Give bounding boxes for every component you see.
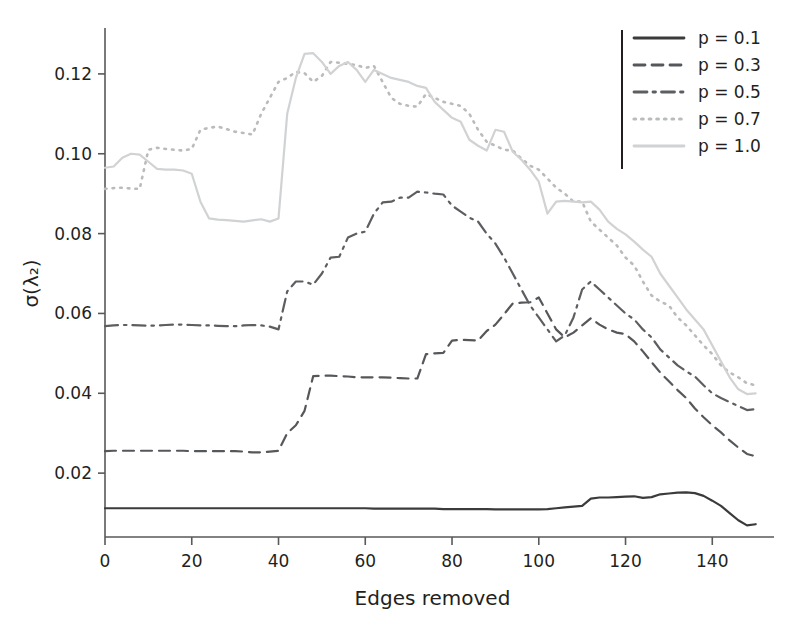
x-tick-label: 20 (181, 551, 203, 571)
chart-figure: 0.020.040.060.080.100.120204060801001201… (0, 0, 789, 627)
legend-label-1: p = 0.3 (698, 55, 761, 75)
x-tick-label: 100 (523, 551, 555, 571)
series-line-0 (105, 492, 756, 525)
y-tick-label: 0.10 (54, 144, 92, 164)
legend-label-0: p = 0.1 (698, 28, 761, 48)
y-tick-label: 0.08 (54, 224, 92, 244)
x-tick-label: 120 (609, 551, 641, 571)
x-tick-label: 80 (441, 551, 463, 571)
chart-canvas: 0.020.040.060.080.100.120204060801001201… (0, 0, 789, 627)
series-line-4 (105, 53, 756, 394)
x-axis-title: Edges removed (355, 586, 511, 610)
series-line-1 (105, 297, 756, 456)
x-tick-label: 0 (100, 551, 111, 571)
x-tick-label: 60 (354, 551, 376, 571)
legend-label-2: p = 0.5 (698, 82, 761, 102)
y-tick-label: 0.06 (54, 303, 92, 323)
x-tick-label: 40 (268, 551, 290, 571)
y-tick-label: 0.04 (54, 383, 92, 403)
y-tick-label: 0.02 (54, 463, 92, 483)
legend-label-3: p = 0.7 (698, 109, 761, 129)
series-line-3 (105, 62, 756, 385)
y-axis-title: σ(λ₂) (19, 259, 43, 307)
legend-label-4: p = 1.0 (698, 136, 761, 156)
y-tick-label: 0.12 (54, 64, 92, 84)
x-tick-label: 140 (696, 551, 728, 571)
